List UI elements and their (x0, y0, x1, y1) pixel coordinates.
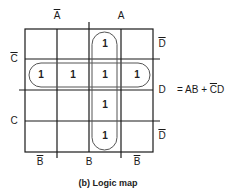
cell-r4-c3: 1 (102, 131, 108, 141)
col-label-b-bar-right: B (134, 157, 141, 167)
cell-r2-c1: 1 (38, 70, 44, 80)
col-label-b-bar-left: B (37, 157, 44, 167)
row-label-d: D (158, 85, 165, 95)
equation-suffix: D (217, 84, 224, 95)
cell-r2-c4: 1 (134, 70, 140, 80)
equation-prefix: = AB + (177, 84, 210, 95)
cell-r1-c3: 1 (102, 39, 108, 49)
col-label-b: B (86, 157, 93, 167)
cell-r2-c3: 1 (102, 70, 108, 80)
row-label-c-bar: C (10, 54, 17, 64)
row-label-d-bar-top: D (158, 39, 165, 49)
equation-c-bar: C (210, 84, 217, 95)
col-label-a: A (118, 11, 125, 21)
equation: = AB + CD (177, 85, 224, 95)
figure-caption: (b) Logic map (79, 178, 138, 188)
kmap-grid (0, 0, 236, 190)
cell-r2-c2: 1 (70, 70, 76, 80)
row-label-c: C (10, 116, 17, 126)
row-label-d-bar-bottom: D (158, 131, 165, 141)
cell-r3-c3: 1 (102, 100, 108, 110)
col-label-a-bar: A (54, 11, 61, 21)
